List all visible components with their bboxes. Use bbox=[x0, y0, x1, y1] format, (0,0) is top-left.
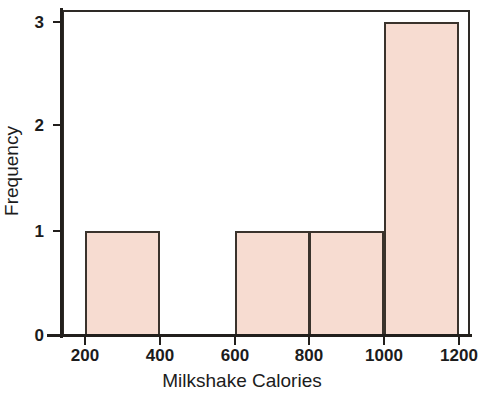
bars-layer bbox=[0, 0, 484, 399]
bar-800-1000 bbox=[309, 231, 384, 336]
x-tick-label-1200: 1200 bbox=[429, 347, 484, 364]
y-tick-label-0: 0 bbox=[26, 327, 44, 344]
y-axis-title: Frequency bbox=[1, 101, 23, 241]
bar-200-400 bbox=[85, 231, 160, 336]
x-axis-line bbox=[47, 334, 472, 337]
y-tick-3 bbox=[53, 21, 62, 23]
x-tick-1000 bbox=[383, 336, 385, 345]
x-axis-title: Milkshake Calories bbox=[0, 370, 484, 392]
y-tick-0 bbox=[53, 334, 62, 336]
y-axis-line bbox=[60, 8, 63, 338]
y-tick-label-1: 1 bbox=[26, 223, 44, 240]
x-tick-600 bbox=[234, 336, 236, 345]
x-tick-200 bbox=[84, 336, 86, 345]
bar-1000-1200 bbox=[384, 22, 459, 336]
bar-600-800 bbox=[235, 231, 310, 336]
x-tick-label-1000: 1000 bbox=[354, 347, 414, 364]
x-tick-label-200: 200 bbox=[55, 347, 115, 364]
x-tick-800 bbox=[308, 336, 310, 345]
y-tick-1 bbox=[53, 230, 62, 232]
y-tick-label-2: 2 bbox=[26, 117, 44, 134]
y-tick-2 bbox=[53, 124, 62, 126]
x-tick-label-400: 400 bbox=[130, 347, 190, 364]
histogram-chart: 3 2 1 0 200 400 600 800 1000 1200 Milksh… bbox=[0, 0, 484, 399]
x-tick-400 bbox=[159, 336, 161, 345]
x-tick-label-600: 600 bbox=[205, 347, 265, 364]
x-tick-1200 bbox=[458, 336, 460, 345]
x-tick-label-800: 800 bbox=[279, 347, 339, 364]
y-tick-label-3: 3 bbox=[26, 14, 44, 31]
